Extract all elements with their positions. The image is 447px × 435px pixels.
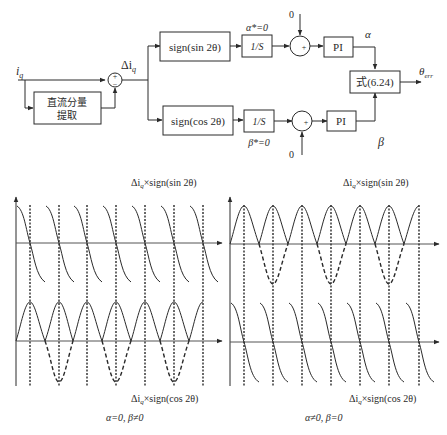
alpha-star-label: α*=0: [246, 22, 268, 33]
alpha-line: [353, 47, 375, 69]
left-waveform-panel: [16, 197, 222, 386]
dc-output-line: [101, 88, 115, 108]
left-bottom-waveform: [16, 302, 203, 341]
integrator-top-text: 1/S: [251, 41, 264, 52]
alpha-label: α: [365, 28, 371, 40]
formula-text: 式(6.24): [356, 76, 394, 89]
dc-block-text-2: 提取: [57, 110, 77, 121]
left-caption: α=0, β≠0: [106, 412, 143, 423]
input-label: iq: [16, 64, 23, 80]
left-top-waveform: [17, 206, 218, 282]
right-caption: α≠0, β=0: [305, 412, 342, 423]
sum1-minus: −: [113, 80, 118, 89]
beta-line: [356, 93, 375, 121]
figure-canvas: iq 直流分量 提取 + − Δiq sign(sin 2θ) sign(cos…: [0, 0, 447, 435]
delta-iq-label: Δiq: [121, 58, 136, 74]
sum-top-sign: +: [302, 43, 307, 52]
dc-block-text-1: 直流分量: [47, 96, 87, 108]
beta-star-label: β*=0: [247, 137, 270, 148]
beta-label: β: [377, 135, 384, 149]
left-bottom-dashed-lobes: [45, 341, 189, 382]
sum-junction-top: [290, 36, 310, 56]
sign-sin-text: sign(sin 2θ): [169, 41, 221, 54]
waveform-labels: Δiq×sign(sin 2θ) Δiq×sign(cos 2θ) α=0, β…: [106, 177, 416, 423]
left-bottom-label: Δiq×sign(cos 2θ): [131, 393, 198, 406]
integrator-bottom-text: 1/S: [253, 116, 266, 127]
zero-bottom-label: 0: [289, 149, 294, 160]
right-waveform-panel: [230, 197, 439, 386]
left-top-label: Δiq×sign(sin 2θ): [131, 177, 197, 190]
right-bottom-label: Δiq×sign(cos 2θ): [349, 393, 416, 406]
right-top-waveform: [230, 206, 419, 244]
dc-branch-line: [25, 80, 33, 108]
pi-bottom-text: PI: [336, 115, 346, 127]
output-label: θerr: [419, 65, 433, 80]
zero-top-label: 0: [289, 9, 294, 20]
sign-cos-text: sign(cos 2θ): [171, 115, 225, 128]
right-top-dashed-lobes: [259, 244, 404, 284]
right-top-label: Δiq×sign(sin 2θ): [343, 177, 409, 190]
sum-junction-bottom: [292, 111, 312, 131]
sum-bottom-sign: +: [304, 118, 309, 127]
pi-top-text: PI: [333, 41, 343, 53]
